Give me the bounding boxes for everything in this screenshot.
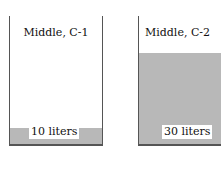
volume-label: 30 liters <box>162 125 212 139</box>
volume-label: 10 liters <box>29 125 79 139</box>
container-c1: Middle, C-1 10 liters <box>9 16 103 146</box>
container-label: Middle, C-1 <box>10 26 102 39</box>
container-label: Middle, C-2 <box>145 26 221 39</box>
container-c2: Middle, C-2 30 liters <box>138 16 221 146</box>
